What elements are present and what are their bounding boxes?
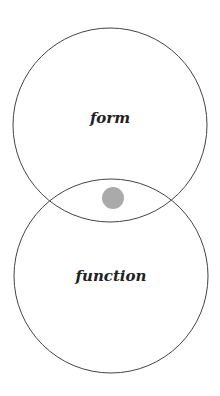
intersection-dot (102, 187, 124, 209)
venn-diagram: form function (0, 0, 220, 396)
label-function: function (75, 267, 147, 285)
label-form: form (89, 109, 130, 127)
